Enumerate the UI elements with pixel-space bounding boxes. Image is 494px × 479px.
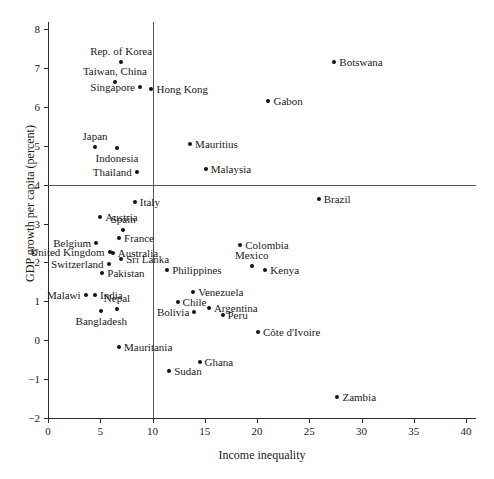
x-tick-label: 5	[98, 425, 104, 437]
x-tick-mark	[414, 419, 415, 423]
y-tick-label: 8	[35, 23, 41, 35]
x-tick-label: 15	[199, 425, 210, 437]
data-point[interactable]	[238, 243, 242, 247]
data-point[interactable]	[99, 309, 103, 313]
y-tick-mark	[44, 185, 48, 186]
data-point[interactable]	[198, 360, 202, 364]
data-point-label: Indonesia	[96, 153, 139, 164]
data-point[interactable]	[98, 215, 102, 219]
x-tick-label: 40	[461, 425, 472, 437]
data-point-label: Bolivia	[157, 307, 189, 318]
data-point[interactable]	[256, 330, 260, 334]
data-point[interactable]	[250, 264, 254, 268]
data-point[interactable]	[94, 241, 98, 245]
y-tick-mark	[44, 224, 48, 225]
data-point-label: Japan	[82, 131, 107, 142]
y-axis-line	[48, 22, 49, 418]
data-point[interactable]	[188, 142, 192, 146]
data-point-label: Brazil	[324, 194, 351, 205]
data-point-label: Nepal	[104, 293, 130, 304]
x-tick-label: 25	[304, 425, 315, 437]
data-point-label: Rep. of Korea	[90, 46, 152, 57]
data-point[interactable]	[335, 395, 339, 399]
y-tick-mark	[44, 107, 48, 108]
data-point[interactable]	[133, 200, 137, 204]
data-point[interactable]	[332, 60, 336, 64]
data-point[interactable]	[108, 250, 112, 254]
reference-line-vertical	[153, 22, 154, 418]
data-point[interactable]	[100, 271, 104, 275]
data-point[interactable]	[138, 85, 142, 89]
scatter-chart-figure: 0510152025303540 −2−1012345678 Rep. of K…	[0, 0, 494, 479]
x-tick-mark	[100, 419, 101, 423]
reference-line-horizontal	[48, 185, 476, 186]
data-point[interactable]	[93, 145, 97, 149]
data-point[interactable]	[135, 170, 139, 174]
data-point-label: Mexico	[235, 250, 269, 261]
data-point-label: Singapore	[90, 82, 135, 93]
data-point[interactable]	[167, 369, 171, 373]
y-tick-mark	[44, 340, 48, 341]
data-point[interactable]	[119, 60, 123, 64]
data-point[interactable]	[192, 310, 196, 314]
x-tick-label: 10	[147, 425, 158, 437]
data-point[interactable]	[84, 293, 88, 297]
data-point[interactable]	[221, 313, 225, 317]
data-point-label: Ghana	[205, 356, 234, 367]
y-tick-label: −1	[28, 373, 40, 385]
data-point-label: Côte d'Ivoire	[263, 327, 320, 338]
data-point[interactable]	[115, 146, 119, 150]
data-point[interactable]	[115, 307, 119, 311]
data-point-label: Bangladesh	[76, 316, 127, 327]
y-tick-mark	[44, 68, 48, 69]
data-point[interactable]	[176, 300, 180, 304]
data-point-label: Botswana	[339, 57, 382, 68]
data-point-label: Sudan	[174, 365, 202, 376]
data-point[interactable]	[317, 197, 321, 201]
x-axis-title: Income inequality	[48, 448, 476, 463]
data-point[interactable]	[149, 87, 153, 91]
data-point-label: Italy	[140, 197, 160, 208]
x-tick-label: 35	[408, 425, 419, 437]
data-point[interactable]	[204, 167, 208, 171]
y-axis-title: GDP growth per capita (percent)	[23, 94, 38, 314]
x-tick-mark	[153, 419, 154, 423]
y-tick-label: 0	[35, 334, 41, 346]
y-tick-label: −2	[28, 412, 40, 424]
y-tick-mark	[44, 146, 48, 147]
x-tick-mark	[48, 419, 49, 423]
data-point[interactable]	[117, 236, 121, 240]
data-point-label: Mauritius	[195, 138, 238, 149]
data-point-label: Sri Lanka	[126, 253, 169, 264]
x-tick-mark	[309, 419, 310, 423]
data-point[interactable]	[191, 290, 195, 294]
data-point-label: Peru	[228, 309, 248, 320]
data-point-label: Malaysia	[211, 164, 251, 175]
data-point[interactable]	[266, 99, 270, 103]
data-point-label: Hong Kong	[156, 84, 208, 95]
y-tick-mark	[44, 262, 48, 263]
data-point-label: Thailand	[93, 166, 132, 177]
data-point-label: Gabon	[273, 95, 302, 106]
x-tick-mark	[205, 419, 206, 423]
y-tick-mark	[44, 418, 48, 419]
x-axis-line	[48, 418, 476, 419]
data-point[interactable]	[165, 268, 169, 272]
data-point[interactable]	[107, 262, 111, 266]
data-point[interactable]	[117, 345, 121, 349]
data-point-label: Malawi	[47, 290, 81, 301]
data-point[interactable]	[93, 293, 97, 297]
data-point-label: Pakistan	[107, 267, 144, 278]
data-point-label: Kenya	[270, 265, 299, 276]
data-point[interactable]	[263, 268, 267, 272]
x-tick-mark	[466, 419, 467, 423]
x-tick-label: 30	[356, 425, 367, 437]
x-tick-label: 20	[252, 425, 263, 437]
x-tick-mark	[257, 419, 258, 423]
x-tick-label: 0	[45, 425, 51, 437]
data-point-label: Zambia	[342, 391, 376, 402]
data-point-label: Philippines	[172, 265, 222, 276]
y-tick-mark	[44, 29, 48, 30]
data-point[interactable]	[119, 257, 123, 261]
data-point[interactable]	[207, 306, 211, 310]
